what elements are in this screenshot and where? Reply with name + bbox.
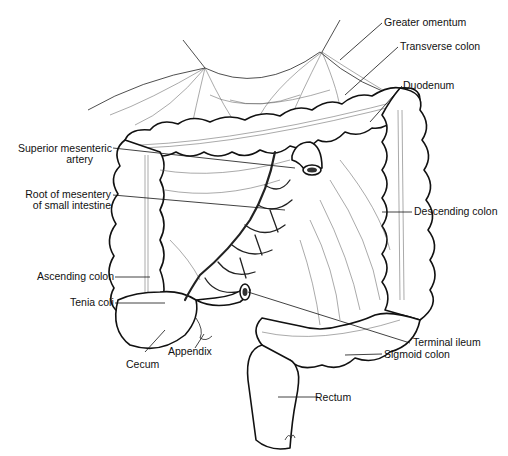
duodenum-shape: [292, 142, 322, 175]
label-terminal-ileum: Terminal ileum: [413, 337, 481, 348]
label-superior-mesenteric-artery: Superior mesenteric artery: [18, 143, 111, 165]
label-ascending-colon: Ascending colon: [37, 271, 114, 282]
descending-colon-shape: [382, 88, 435, 320]
label-superior-mesenteric-line-2: artery: [66, 153, 111, 165]
label-rectum: Rectum: [315, 392, 351, 403]
label-appendix: Appendix: [168, 346, 212, 357]
ascending-colon-shape: [109, 140, 164, 312]
label-duodenum: Duodenum: [403, 80, 454, 91]
terminal-ileum-shape: [196, 284, 250, 306]
label-tenia-coli: Tenia coli: [70, 297, 114, 308]
label-sigmoid-colon: Sigmoid colon: [384, 349, 450, 360]
appendix-shape: [196, 318, 212, 340]
label-greater-omentum: Greater omentum: [384, 17, 466, 28]
label-root-of-mesentery-line-2: of small intestine: [33, 199, 111, 211]
superior-mesenteric-artery-vessels: [185, 152, 292, 300]
label-transverse-colon: Transverse colon: [400, 41, 480, 52]
transverse-colon-shape: [125, 88, 420, 156]
label-root-of-mesentery: Root of mesentery of small intestine: [20, 189, 111, 211]
label-descending-colon: Descending colon: [414, 206, 497, 217]
colon-anatomy-illustration: [0, 0, 508, 456]
label-cecum: Cecum: [126, 359, 159, 370]
